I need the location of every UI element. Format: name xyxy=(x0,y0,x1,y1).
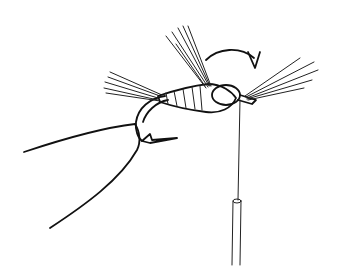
tying-thread xyxy=(238,100,240,200)
feather-fibers xyxy=(166,26,211,88)
fly-body xyxy=(158,84,236,112)
fly-tying-drawing xyxy=(0,0,356,275)
rotation-arrow-icon xyxy=(206,50,260,68)
tail-fibers xyxy=(104,72,162,101)
vise-jaw xyxy=(24,124,139,228)
illustration-canvas: fly-tying step: hackle fibers wrapped at… xyxy=(0,0,356,275)
hook xyxy=(136,96,177,143)
bobbin-tube xyxy=(232,199,241,265)
